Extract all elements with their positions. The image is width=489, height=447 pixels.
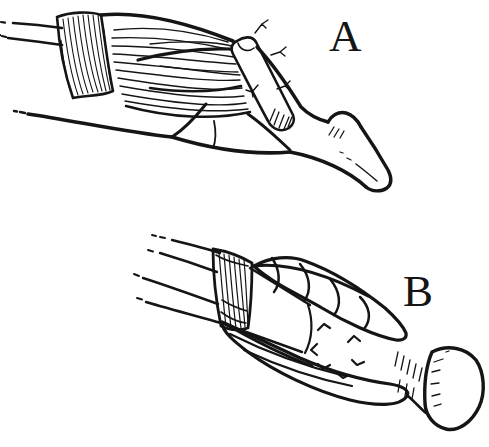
upper-silhouette (101, 14, 233, 41)
retinaculum-band-a (57, 13, 113, 98)
panel-a-drawing: A (0, 11, 391, 191)
phalanx-bone (257, 47, 391, 191)
medical-figure: A (0, 0, 489, 447)
panel-b-drawing: B (134, 235, 483, 430)
illustration-canvas: A (0, 0, 489, 447)
proximal-tendons (134, 235, 221, 323)
panel-b-label: B (403, 266, 433, 316)
muscle-belly (112, 29, 250, 117)
proximal-tendon (0, 22, 62, 45)
panel-a-label: A (329, 11, 362, 61)
